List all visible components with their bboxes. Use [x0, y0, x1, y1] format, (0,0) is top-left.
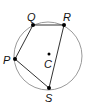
label-p: P: [3, 54, 11, 66]
label-q: Q: [27, 11, 36, 23]
point-s: [47, 86, 51, 90]
label-c: C: [44, 58, 52, 70]
circle-diagram: P Q R S C: [0, 0, 90, 108]
center-point-c: [48, 53, 51, 56]
label-s: S: [45, 92, 53, 104]
point-p: [13, 57, 17, 61]
circle: [14, 22, 82, 90]
point-r: [62, 23, 66, 27]
point-q: [31, 23, 35, 27]
label-r: R: [63, 11, 71, 23]
